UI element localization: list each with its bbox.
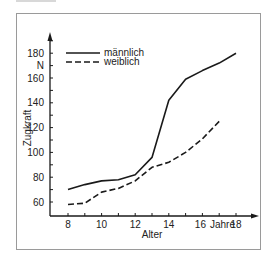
y-tick-label: 60 xyxy=(33,197,45,208)
x-tick-label: 10 xyxy=(96,219,108,230)
y-tick-label: 100 xyxy=(27,147,44,158)
x-tick-label: 12 xyxy=(130,219,142,230)
y-tick-label: 80 xyxy=(33,172,45,183)
series-line-weiblich xyxy=(68,121,219,204)
x-axis-title: Alter xyxy=(142,229,163,240)
legend-female-label: weiblich xyxy=(103,56,140,67)
series-line-maennlich xyxy=(68,53,236,189)
y-tick-label: 140 xyxy=(27,97,44,108)
y-axis-title: Zugkraft xyxy=(22,109,33,146)
y-unit-label: N xyxy=(37,60,44,71)
series-lines xyxy=(68,53,236,204)
line-chart: 608010012014016018081012141618 männlich … xyxy=(0,0,277,263)
x-tick-label: 8 xyxy=(65,219,71,230)
y-tick-label: 160 xyxy=(27,73,44,84)
x-unit-label: Jahre xyxy=(210,219,235,230)
x-tick-label: 14 xyxy=(163,219,175,230)
y-tick-label: 180 xyxy=(27,48,44,59)
legend: männlich weiblich xyxy=(66,47,144,67)
x-axis-arrow-icon xyxy=(251,214,259,219)
y-axis-arrow-icon xyxy=(48,32,53,41)
x-tick-label: 16 xyxy=(195,219,207,230)
axes: 608010012014016018081012141618 xyxy=(27,32,259,230)
